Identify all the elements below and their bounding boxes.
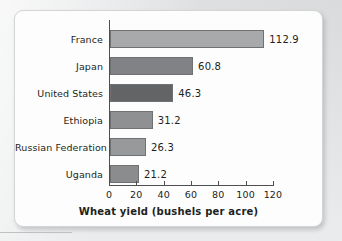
category-label: Ethiopia [15, 115, 103, 126]
tick-label: 20 [121, 189, 151, 200]
bar [110, 84, 173, 102]
category-label: France [15, 34, 103, 45]
bar-chart: FranceJapanUnited StatesEthiopiaRussian … [15, 11, 322, 226]
bar [110, 30, 264, 48]
bar-value-label: 46.3 [178, 88, 201, 99]
tick-mark [164, 181, 165, 185]
tick-mark [273, 181, 274, 185]
category-label: Russian Federation [15, 142, 103, 153]
scan-artifact-line [0, 232, 72, 233]
bar-value-label: 31.2 [158, 115, 181, 126]
tick-mark [191, 181, 192, 185]
bar [110, 165, 139, 183]
x-axis-title: Wheat yield (bushels per acre) [15, 206, 322, 217]
tick-label: 40 [149, 189, 179, 200]
tick-label: 80 [203, 189, 233, 200]
bar [110, 111, 153, 129]
bar [110, 138, 146, 156]
bar-value-label: 112.9 [269, 34, 299, 45]
x-axis-line [109, 185, 274, 186]
bar [110, 57, 193, 75]
bar-value-label: 60.8 [198, 61, 221, 72]
tick-mark [109, 181, 110, 185]
tick-label: 60 [176, 189, 206, 200]
category-label: United States [15, 88, 103, 99]
tick-label: 100 [231, 189, 261, 200]
category-label: Japan [15, 61, 103, 72]
tick-mark [136, 181, 137, 185]
figure-card: FranceJapanUnited StatesEthiopiaRussian … [14, 10, 323, 227]
tick-label: 0 [94, 189, 124, 200]
bar-value-label: 26.3 [151, 142, 174, 153]
tick-label: 120 [258, 189, 288, 200]
bar-value-label: 21.2 [144, 169, 167, 180]
tick-mark [218, 181, 219, 185]
category-label: Uganda [15, 169, 103, 180]
tick-mark [246, 181, 247, 185]
